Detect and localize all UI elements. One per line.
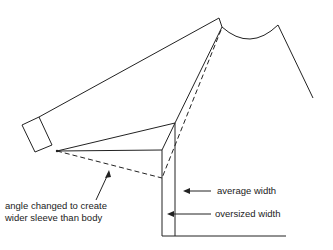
- angle-note-line1: angle changed to create: [5, 200, 107, 211]
- oversized-width-label: oversized width: [215, 208, 280, 219]
- average-width-arrow-head-icon: [183, 188, 190, 194]
- sleeve-underside: [57, 123, 175, 151]
- underarm-diagonal: [162, 123, 175, 150]
- dashed-armhole: [162, 30, 221, 178]
- sleeve-body-join: [57, 150, 162, 151]
- shoulder-edge: [219, 18, 222, 27]
- right-shoulder-edge: [278, 25, 313, 98]
- sleeve-top-edge: [39, 18, 219, 117]
- garment-diagram: angle changed to create wider sleeve tha…: [0, 0, 333, 250]
- sleeve-corner-dot: [56, 150, 58, 152]
- oversized-width-arrow-head-icon: [167, 211, 174, 217]
- average-width-label: average width: [217, 185, 276, 196]
- angle-note-line2: wider sleeve than body: [5, 212, 102, 223]
- sleeve-cuff: [22, 117, 52, 152]
- armhole-line: [175, 27, 222, 123]
- neckline: [222, 25, 278, 39]
- angle-arrow-head-icon: [105, 170, 111, 178]
